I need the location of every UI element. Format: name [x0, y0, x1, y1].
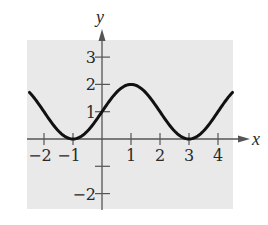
x-tick-label: 3 [184, 146, 194, 165]
x-tick-label: 4 [213, 146, 223, 165]
y-axis-label: y [94, 7, 104, 27]
x-tick-label: 2 [155, 146, 165, 165]
sine-graph: x y −2−11234 321−2 [0, 0, 268, 225]
y-tick-label: 2 [86, 75, 96, 94]
y-axis-arrow-icon [99, 29, 106, 41]
y-tick-label: 1 [86, 103, 96, 122]
x-tick-label: 1 [126, 146, 136, 165]
plot-background [27, 40, 233, 209]
x-axis-label: x [251, 129, 260, 149]
x-tick-label: −1 [57, 146, 81, 165]
y-tick-label: 3 [86, 48, 96, 67]
x-axis-arrow-icon [238, 136, 250, 143]
y-tick-label: −2 [72, 185, 96, 204]
x-tick-label: −2 [28, 146, 52, 165]
